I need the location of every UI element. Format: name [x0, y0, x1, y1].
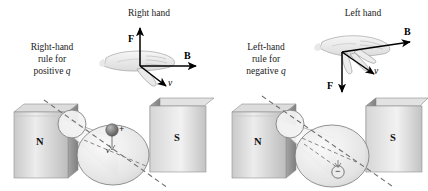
south-pole-magnet: [150, 98, 214, 172]
magnetic-force-hand-rule-figure: Right hand Right-hand rule for positive …: [0, 0, 428, 191]
right-hand-rule-caption: Right-hand rule for positive q: [4, 42, 100, 78]
rule-line-3: negative q: [218, 66, 314, 78]
left-hand-illustration: [314, 36, 390, 74]
right-hand-title: Right hand: [104, 8, 194, 19]
force-vector-label: F: [128, 33, 134, 44]
left-hand-panel-graphics: [214, 0, 428, 191]
charge-symbol: q: [281, 66, 286, 76]
velocity-vector-label: v: [374, 66, 378, 76]
charge-velocity-label: v: [106, 146, 110, 155]
right-hand-rule-panel: Right hand Right-hand rule for positive …: [0, 0, 214, 191]
rule-line-1: Right-hand: [4, 42, 100, 54]
south-pole-label: S: [174, 132, 180, 143]
rule-line-3-prefix: positive: [33, 66, 65, 76]
left-hand-title: Left hand: [318, 8, 408, 19]
north-pole-label: N: [254, 136, 262, 147]
north-pole-label: N: [36, 136, 44, 147]
left-hand-rule-panel: Left hand Left-hand rule for negative q …: [214, 0, 428, 191]
charge-symbol: q: [66, 66, 71, 76]
negative-charge-sign: −: [335, 166, 340, 176]
rule-line-2: rule for: [4, 54, 100, 66]
magnetic-field-vector-label: B: [184, 50, 191, 61]
south-pole-label: S: [390, 132, 396, 143]
force-vector-label: F: [327, 80, 333, 91]
positive-charge-sign: +: [119, 124, 124, 134]
rule-line-3-prefix: negative: [246, 66, 281, 76]
left-hand-rule-caption: Left-hand rule for negative q: [218, 42, 314, 78]
right-hand-illustration: [99, 51, 174, 86]
rule-line-2: rule for: [218, 54, 314, 66]
rule-line-1: Left-hand: [218, 42, 314, 54]
velocity-vector-label: v: [168, 78, 172, 88]
right-hand-panel-graphics: [0, 0, 214, 191]
rule-line-3: positive q: [4, 66, 100, 78]
magnetic-field-vector-label: B: [404, 26, 411, 37]
south-pole-magnet-right: [366, 98, 428, 172]
